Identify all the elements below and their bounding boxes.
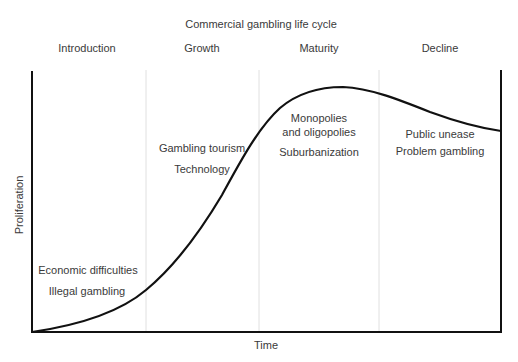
factor-monopolies: Monopolies [291,112,347,125]
x-axis-label: Time [254,339,278,352]
factor-economic-difficulties: Economic difficulties [38,264,137,277]
factor-gambling-tourism: Gambling tourism [159,142,245,155]
factor-technology: Technology [174,163,230,176]
factor-suburbanization: Suburbanization [279,146,359,159]
factor-oligopolies: and oligopolies [282,126,355,139]
life-cycle-chart [0,0,518,362]
factor-illegal-gambling: Illegal gambling [49,285,125,298]
factor-problem-gambling: Problem gambling [396,145,485,158]
y-axis-label: Proliferation [13,176,25,235]
factor-public-unease: Public unease [405,128,474,141]
